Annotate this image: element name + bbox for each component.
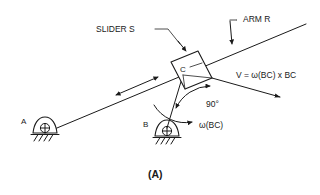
right-angle-arc (176, 86, 210, 108)
label-angle-90: 90° (206, 99, 219, 109)
support-b-ground-hatching (156, 138, 175, 145)
label-arm-r: ARM R (243, 14, 270, 24)
link-bc (167, 75, 183, 128)
slider-s-leader-arrow (178, 41, 186, 51)
velocity-vector-arrow (212, 78, 280, 97)
label-omega: ω(BC) (199, 120, 223, 130)
figure-canvas: A B C (0, 0, 320, 195)
slider-s-square (171, 51, 212, 89)
slide-direction-double-arrow (116, 77, 158, 95)
support-a-ground-hatching (34, 135, 53, 142)
slider-s-block: C (171, 51, 212, 89)
label-node-c: C (180, 65, 186, 74)
kinematics-diagram: A B C (0, 0, 320, 195)
label-velocity: V = ω(BC) x BC (236, 70, 296, 80)
support-a: A (21, 117, 59, 141)
label-slider-s: SLIDER S (96, 24, 135, 34)
slider-s-leader-line (155, 29, 180, 44)
support-b: B (143, 120, 181, 144)
label-node-b: B (143, 120, 148, 129)
label-node-a: A (21, 117, 27, 126)
figure-caption: (A) (148, 168, 163, 180)
arm-r-leader-arrow (230, 21, 232, 44)
